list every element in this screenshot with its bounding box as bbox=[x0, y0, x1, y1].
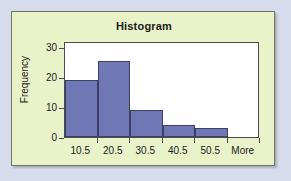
x-tick-mark-3 bbox=[194, 138, 195, 143]
x-tick-mark-0 bbox=[97, 138, 98, 143]
y-tick-label-0: 0 bbox=[31, 133, 57, 143]
chart-title: Histogram bbox=[12, 20, 276, 32]
plot-area bbox=[64, 42, 259, 138]
y-tick-label-10: 10 bbox=[31, 103, 57, 113]
y-tick-mark-0 bbox=[59, 138, 64, 139]
histogram-chart: Histogram Frequency 0102030 10.520.530.5… bbox=[11, 11, 275, 166]
x-tick-mark-4 bbox=[227, 138, 228, 143]
y-tick-label-20: 20 bbox=[31, 73, 57, 83]
bar-30.5 bbox=[130, 110, 163, 137]
y-tick-label-30: 30 bbox=[31, 43, 57, 53]
y-axis-title: Frequency bbox=[19, 50, 30, 110]
bar-20.5 bbox=[98, 61, 131, 138]
bar-50.5 bbox=[195, 128, 228, 137]
x-tick-mark-1 bbox=[129, 138, 130, 143]
bar-10.5 bbox=[65, 80, 98, 137]
x-tick-mark-2 bbox=[162, 138, 163, 143]
bar-40.5 bbox=[163, 125, 196, 137]
x-tick-label-more: More bbox=[220, 145, 266, 156]
x-tick-mark-5 bbox=[259, 138, 260, 143]
